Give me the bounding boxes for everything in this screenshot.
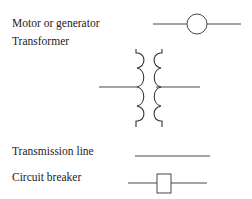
transformer-icon (99, 49, 200, 127)
symbols-canvas (0, 0, 252, 199)
motor-generator-icon (153, 14, 241, 34)
circuit-breaker-icon (128, 174, 207, 193)
